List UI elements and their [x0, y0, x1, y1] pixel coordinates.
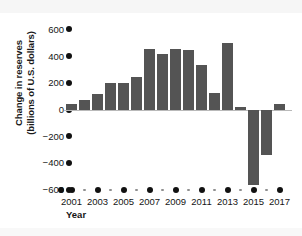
bar	[157, 54, 168, 110]
bar	[248, 110, 259, 185]
y-tick: 0	[8, 105, 64, 115]
bar	[274, 104, 285, 110]
x-tick-dot-major	[225, 187, 231, 193]
y-tick-label: −200	[20, 132, 64, 142]
x-tick-dot-major	[69, 187, 75, 193]
x-tick-dot-major	[121, 187, 127, 193]
bar	[170, 49, 181, 110]
x-tick-dot-major	[199, 187, 205, 193]
bar	[183, 50, 194, 110]
x-axis-title: Year	[66, 209, 86, 220]
bar	[144, 49, 155, 110]
bar	[235, 107, 246, 110]
x-tick-dot-major	[277, 187, 283, 193]
bar	[118, 83, 129, 110]
x-tick-dot-major	[147, 187, 153, 193]
y-tick-label: −400	[20, 158, 64, 168]
bar	[66, 104, 77, 110]
plot-area	[64, 28, 292, 192]
y-tick-label: 200	[20, 78, 64, 88]
x-tick-dot-major	[95, 187, 101, 193]
bar	[92, 94, 103, 110]
y-tick: 400	[8, 52, 64, 62]
y-tick-label: 600	[20, 25, 64, 35]
bar	[196, 65, 207, 110]
bar	[105, 83, 116, 110]
y-tick-label: 400	[20, 52, 64, 62]
y-tick: −400	[8, 158, 64, 168]
x-tick-dot-major	[251, 187, 257, 193]
bar	[131, 77, 142, 110]
bar	[222, 43, 233, 110]
bar	[79, 100, 90, 110]
y-tick: 200	[8, 78, 64, 88]
y-tick-label: 0	[20, 105, 64, 115]
y-tick: −200	[8, 132, 64, 142]
x-tick-label: 2017	[264, 196, 296, 207]
x-tick-dot-major	[173, 187, 179, 193]
y-tick: 600	[8, 25, 64, 35]
bar	[261, 110, 272, 155]
bar	[209, 93, 220, 110]
x-axis-origin-dot	[58, 187, 64, 193]
bar-chart-figure: Change in reserves (billions of U.S. dol…	[0, 0, 302, 236]
y-tick: −600	[8, 185, 64, 195]
